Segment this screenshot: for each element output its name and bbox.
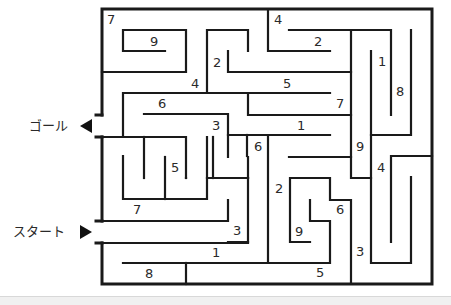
maze-number: 8 (145, 267, 153, 280)
start-label: スタート (13, 225, 65, 238)
maze-number: 2 (213, 56, 221, 69)
maze-number: 4 (377, 161, 385, 174)
maze-number: 3 (356, 245, 364, 258)
maze-number: 5 (316, 266, 324, 279)
maze-number: 7 (107, 13, 115, 26)
start-arrow-icon (80, 225, 92, 239)
maze-number: 9 (356, 140, 364, 153)
maze-number: 7 (133, 203, 141, 216)
goal-label: ゴール (29, 119, 68, 132)
maze-number: 1 (297, 119, 305, 132)
maze-number: 6 (158, 97, 166, 110)
maze-number: 5 (171, 161, 179, 174)
maze-number: 5 (283, 77, 291, 90)
maze-number: 6 (254, 140, 262, 153)
maze-number: 9 (150, 35, 158, 48)
maze-number: 3 (212, 119, 220, 132)
maze-number: 8 (396, 85, 404, 98)
maze-number: 2 (275, 182, 283, 195)
maze-number: 7 (336, 97, 344, 110)
goal-arrow-icon (80, 119, 92, 133)
maze-number: 4 (274, 13, 282, 26)
maze-number: 1 (212, 246, 220, 259)
maze-number: 9 (295, 225, 303, 238)
maze-number: 4 (191, 77, 199, 90)
bottom-divider (0, 296, 451, 305)
maze-number: 2 (314, 35, 322, 48)
maze-number: 6 (336, 203, 344, 216)
maze-number: 3 (233, 224, 241, 237)
maze-number: 1 (378, 55, 386, 68)
